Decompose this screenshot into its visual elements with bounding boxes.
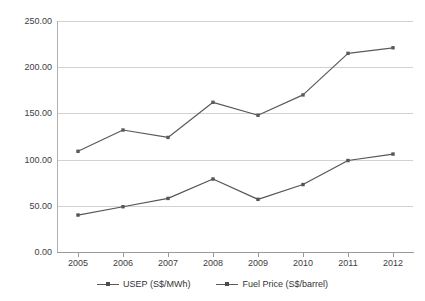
legend-item-fuel-price[interactable]: Fuel Price (S$/barrel) — [216, 279, 328, 289]
x-axis-tick-label: 2010 — [281, 258, 325, 268]
legend-label: Fuel Price (S$/barrel) — [242, 279, 328, 289]
legend-label: USEP (S$/MWh) — [123, 279, 190, 289]
x-axis-tick-label: 2012 — [371, 258, 415, 268]
x-axis-labels: 2005 2006 2007 2008 2009 2010 2011 2012 — [57, 0, 414, 301]
line-chart: 250.00 200.00 150.00 100.00 50.00 0.00 2… — [0, 0, 425, 301]
x-axis-tick-label: 2008 — [191, 258, 235, 268]
legend-line-marker-icon — [97, 280, 119, 289]
legend-line-marker-icon — [216, 280, 238, 289]
x-axis-tick-label: 2011 — [326, 258, 370, 268]
x-axis-tick-label: 2006 — [101, 258, 145, 268]
x-axis-tick-label: 2007 — [146, 258, 190, 268]
chart-legend: USEP (S$/MWh) Fuel Price (S$/barrel) — [0, 276, 425, 292]
x-axis-tick-label: 2009 — [236, 258, 280, 268]
x-axis-tick-label: 2005 — [56, 258, 100, 268]
legend-item-usep[interactable]: USEP (S$/MWh) — [97, 279, 190, 289]
